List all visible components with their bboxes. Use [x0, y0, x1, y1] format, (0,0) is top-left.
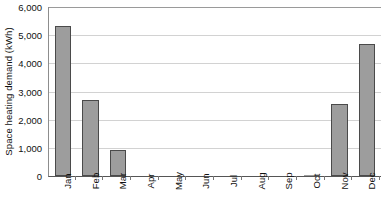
x-axis-label-slot: Apr	[131, 181, 159, 217]
x-axis-tick-label: Apr	[145, 174, 156, 189]
x-axis-label-slot: Aug	[242, 181, 270, 217]
x-axis-label-slot: Feb	[76, 181, 104, 217]
x-axis-label-slot: Mar	[103, 181, 131, 217]
bar-slot	[187, 7, 215, 176]
y-axis-tick-labels: 01,0002,0003,0004,0005,0006,000	[14, 0, 45, 182]
bar-slot	[270, 7, 298, 176]
y-axis-tick-label: 0	[37, 171, 42, 182]
bar-slot	[215, 7, 243, 176]
x-axis-tick-label: Jul	[228, 175, 239, 187]
bar-slot	[104, 7, 132, 176]
x-axis-label-slot: Oct	[297, 181, 325, 217]
x-axis-label-slot: Dec	[352, 181, 380, 217]
x-axis-label-slot: Jun	[186, 181, 214, 217]
x-axis-label-slot: Sep	[269, 181, 297, 217]
x-axis-label-slot: Nov	[325, 181, 353, 217]
bar[interactable]	[55, 26, 71, 176]
x-axis-tick-label: May	[173, 172, 184, 190]
x-axis-tick-label: Sep	[283, 173, 294, 190]
plot-area	[48, 7, 381, 177]
y-axis-tick-label: 3,000	[18, 86, 42, 97]
bar-slot	[243, 7, 271, 176]
x-axis-tick-labels: JanFebMarAprMayJunJulAugSepOctNovDec	[48, 181, 380, 217]
bar[interactable]	[359, 44, 375, 176]
bar-slot	[326, 7, 354, 176]
x-axis-label-slot: May	[159, 181, 187, 217]
bar-slot	[132, 7, 160, 176]
y-axis-tick-label: 4,000	[18, 58, 42, 69]
x-axis-tick-label: Jan	[62, 173, 73, 188]
bar-slot	[353, 7, 381, 176]
x-axis-tick-label: Aug	[256, 173, 267, 190]
bar-slot	[49, 7, 77, 176]
y-axis-title-label: Space heating demand (kWh)	[3, 27, 14, 155]
y-axis-tick-label: 2,000	[18, 114, 42, 125]
x-axis-tick-label: Feb	[90, 173, 101, 189]
bar-slot	[298, 7, 326, 176]
x-axis-label-slot: Jan	[48, 181, 76, 217]
x-axis-tick-label: Jun	[200, 173, 211, 188]
x-axis-tick-label: Nov	[339, 173, 350, 190]
x-axis-tick-label: Dec	[366, 173, 377, 190]
bar-chart-figure: Space heating demand (kWh) 01,0002,0003,…	[0, 0, 385, 217]
x-axis-tick-label: Mar	[117, 173, 128, 189]
bar[interactable]	[331, 104, 347, 176]
y-axis-tick-label: 1,000	[18, 142, 42, 153]
y-axis-tick-label: 5,000	[18, 30, 42, 41]
y-axis-tick-label: 6,000	[18, 2, 42, 13]
bar-slot	[77, 7, 105, 176]
x-axis-tick-label: Oct	[311, 174, 322, 189]
bar[interactable]	[82, 100, 98, 176]
x-axis-label-slot: Jul	[214, 181, 242, 217]
bars-layer	[49, 7, 381, 176]
bar-slot	[160, 7, 188, 176]
